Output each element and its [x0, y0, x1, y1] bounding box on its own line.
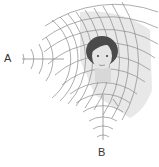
source-a-label: A — [4, 53, 11, 64]
wave-diagram — [0, 0, 159, 167]
source-b-label: B — [98, 147, 105, 158]
